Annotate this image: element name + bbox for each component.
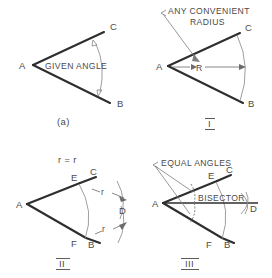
radius-label-lower-II: r: [102, 224, 105, 234]
panel-a: A C B GIVEN ANGLE (a): [19, 21, 124, 127]
radius-note-line2: RADIUS: [190, 17, 225, 27]
point-label-c-II: C: [90, 166, 97, 177]
ray-ac-II: [27, 183, 80, 204]
radius-label-I: R: [196, 63, 203, 73]
point-label-b-III: B: [224, 239, 231, 250]
panel-I: R ANY CONVENIENT RADIUS A C B I: [156, 6, 255, 130]
point-label-d-III: D: [250, 203, 257, 214]
panel-caption-III: III: [185, 258, 194, 269]
point-label-e-II: E: [71, 172, 78, 183]
point-label-b-II: B: [88, 239, 95, 250]
equal-radius-note-II: r = r: [58, 155, 77, 165]
bisector-label-III: BISECTOR: [198, 193, 245, 203]
point-label-f-II: F: [71, 238, 77, 249]
radius-label-upper-II: r: [101, 187, 104, 197]
point-label-d-II: D: [119, 205, 126, 216]
point-label-b: B: [117, 98, 124, 109]
radius-note-line1: ANY CONVENIENT: [168, 6, 250, 16]
arc-ef-III: [216, 182, 226, 239]
point-label-b-I: B: [248, 98, 255, 109]
point-label-a: A: [19, 60, 26, 71]
panel-caption-a: (a): [57, 116, 70, 127]
figure-canvas: A C B GIVEN ANGLE (a) R ANY CONVENIENT R…: [0, 0, 272, 278]
point-label-c: C: [110, 21, 117, 32]
equal-angle-arc-upper: [191, 184, 195, 203]
given-angle-note: GIVEN ANGLE: [45, 61, 107, 71]
panel-caption-II: II: [59, 258, 65, 269]
dim-e-left-II: [92, 189, 100, 192]
arc-ef-II: [79, 184, 89, 239]
ray-ac-I: [168, 33, 240, 66]
arc-arrowhead-top: [92, 40, 97, 46]
point-label-c-III: C: [226, 164, 233, 175]
point-label-c-I: C: [245, 22, 252, 33]
arc-arrowhead-bottom: [97, 90, 102, 96]
ray-ec-III: [217, 175, 231, 181]
ray-ec-II: [80, 177, 96, 183]
point-label-a-I: A: [156, 61, 163, 72]
panel-caption-I: I: [208, 118, 211, 129]
leader-line-upper-III: [155, 166, 193, 192]
point-label-a-III: A: [152, 198, 159, 209]
angle-bisection-figure: A C B GIVEN ANGLE (a) R ANY CONVENIENT R…: [0, 0, 272, 278]
point-label-e-III: E: [208, 170, 215, 181]
ray-ab-III: [163, 203, 222, 238]
equal-angles-note-III: EQUAL ANGLES: [161, 158, 231, 168]
ray-ab-II: [27, 204, 86, 238]
point-label-a-II: A: [16, 199, 23, 210]
ray-ab-I: [168, 66, 243, 103]
point-label-f-III: F: [206, 239, 212, 250]
panel-II: r r r = r E C F B A D II: [16, 155, 127, 270]
panel-III: BISECTOR EQUAL ANGLES E C F B A D III: [152, 158, 258, 270]
dim-f-left-II: [95, 231, 102, 234]
leader-line-lower-III: [155, 166, 190, 214]
